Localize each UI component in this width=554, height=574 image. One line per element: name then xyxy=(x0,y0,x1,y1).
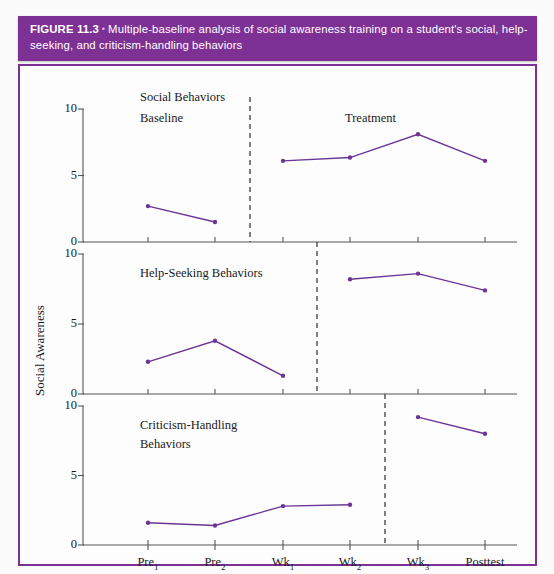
data-point-2-treatment-0 xyxy=(416,415,420,419)
y-tick-label-0-10: 10 xyxy=(49,101,77,116)
data-point-1-baseline-1 xyxy=(213,339,217,343)
data-point-0-treatment-2 xyxy=(416,132,420,136)
data-point-1-baseline-0 xyxy=(146,360,150,364)
data-point-1-baseline-2 xyxy=(281,374,285,378)
data-point-1-treatment-1 xyxy=(416,271,420,275)
data-point-1-treatment-2 xyxy=(483,288,487,292)
figure-caption-bar: FIGURE 11.3•Multiple-baseline analysis o… xyxy=(18,16,537,61)
data-point-2-baseline-0 xyxy=(146,521,150,525)
figure-page: FIGURE 11.3•Multiple-baseline analysis o… xyxy=(0,0,554,574)
series-line-1-baseline xyxy=(148,341,283,376)
panel-title-1: Help-Seeking Behaviors xyxy=(140,266,263,281)
data-point-0-treatment-3 xyxy=(483,159,487,163)
y-tick-label-0-5: 5 xyxy=(49,168,77,183)
data-point-0-baseline-1 xyxy=(213,220,217,224)
multiple-baseline-chart xyxy=(20,66,539,568)
phase-label-treatment: Treatment xyxy=(345,111,396,126)
series-line-2-treatment xyxy=(418,417,485,434)
chart-frame: Social Awareness 0510Social Behaviors051… xyxy=(18,64,537,566)
caption-separator-dot: • xyxy=(99,24,108,34)
y-tick-label-2-10: 10 xyxy=(49,398,77,413)
figure-number: FIGURE 11.3 xyxy=(30,23,99,35)
data-point-1-treatment-0 xyxy=(348,277,352,281)
data-point-0-baseline-0 xyxy=(146,204,150,208)
y-tick-label-2-0: 0 xyxy=(49,537,77,552)
data-point-2-baseline-1 xyxy=(213,523,217,527)
series-line-2-baseline xyxy=(148,505,350,526)
panel-title-2-line1: Criticism-Handling xyxy=(140,418,237,433)
data-point-0-treatment-1 xyxy=(348,155,352,159)
series-line-0-treatment xyxy=(283,134,485,161)
phase-label-baseline: Baseline xyxy=(140,111,183,126)
data-point-2-baseline-2 xyxy=(281,504,285,508)
y-tick-label-2-5: 5 xyxy=(49,468,77,483)
y-tick-label-1-10: 10 xyxy=(49,246,77,261)
y-tick-label-1-5: 5 xyxy=(49,316,77,331)
panel-title-0: Social Behaviors xyxy=(140,90,225,105)
figure-caption-text: FIGURE 11.3•Multiple-baseline analysis o… xyxy=(30,22,530,53)
data-point-0-treatment-0 xyxy=(281,159,285,163)
data-point-2-treatment-1 xyxy=(483,432,487,436)
series-line-0-baseline xyxy=(148,206,215,222)
x-tick-label-5: Posttest xyxy=(440,555,530,570)
series-line-1-treatment xyxy=(350,274,485,291)
panel-title-2-line2: Behaviors xyxy=(140,437,191,452)
y-axis-title: Social Awareness xyxy=(32,305,48,396)
data-point-2-baseline-3 xyxy=(348,502,352,506)
